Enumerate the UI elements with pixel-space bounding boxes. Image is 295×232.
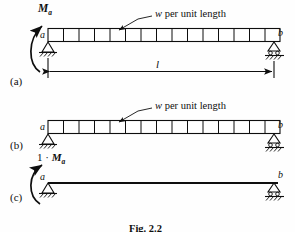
panel-c-unit-moment-label: 1 · Ma xyxy=(37,152,65,166)
panel-b-roller-support xyxy=(265,134,284,152)
panel-a-load-label: w per unit length xyxy=(155,9,226,20)
figure-caption: Fig. 2.2 xyxy=(129,224,162,232)
panel-b-load-label: w per unit length xyxy=(155,101,226,112)
panel-a-span-dimension xyxy=(48,58,274,78)
panel-a-load-leader xyxy=(119,16,152,30)
panel-b-load-leader xyxy=(119,108,152,122)
figure-container: Ma w per unit length a b l (a) w per uni… xyxy=(0,0,295,232)
panel-c-graphics xyxy=(31,165,284,204)
panel-b-load-strip xyxy=(48,121,280,134)
panel-b-node-a-label: a xyxy=(40,122,45,132)
panel-c-node-b-label: b xyxy=(278,170,283,180)
panel-a-moment-label: Ma xyxy=(38,3,52,17)
panel-b-node-b-label: b xyxy=(278,120,283,130)
panel-a-tag: (a) xyxy=(10,76,22,87)
panel-b-graphics xyxy=(39,108,284,152)
panel-b-tag: (b) xyxy=(10,140,23,151)
panel-a-span-label: l xyxy=(156,59,159,70)
panel-a-load-strip xyxy=(48,29,280,42)
panel-c-pin-support xyxy=(39,183,57,198)
panel-c-tag: (c) xyxy=(10,192,22,203)
panel-c-node-a-label: a xyxy=(40,172,45,182)
panel-b-pin-support xyxy=(39,134,57,149)
panel-a-node-b-label: b xyxy=(278,28,283,38)
panel-a-pin-support xyxy=(39,42,57,57)
panel-a-node-a-label: a xyxy=(40,30,45,40)
panel-a-roller-support xyxy=(265,42,284,60)
panel-c-roller-support xyxy=(265,183,284,201)
